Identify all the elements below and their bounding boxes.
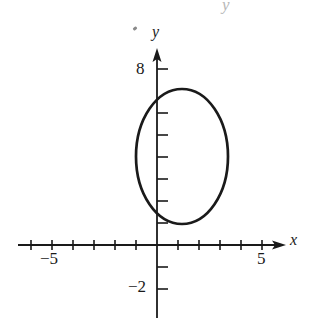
stray-glyph-top: y xyxy=(222,0,230,13)
y-tick-label-8: 8 xyxy=(136,60,145,77)
y-axis-ticks xyxy=(157,69,168,289)
x-tick-label-negative-5: −5 xyxy=(40,250,58,267)
ellipse-curve xyxy=(136,89,228,224)
graph-figure: y x 8 −5 5 −2 y xyxy=(0,0,310,326)
y-tick-label-negative-2: −2 xyxy=(128,278,146,295)
y-axis-label: y xyxy=(152,24,159,40)
x-axis-label: x xyxy=(290,232,297,248)
x-tick-label-5: 5 xyxy=(257,250,266,267)
coordinate-plane-svg xyxy=(0,0,310,326)
